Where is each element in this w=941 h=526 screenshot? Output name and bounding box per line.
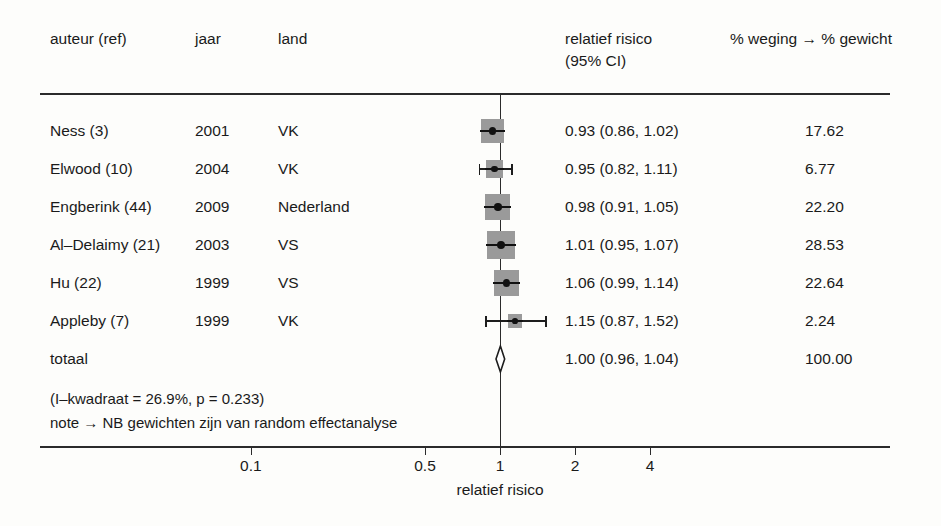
axis-tick-label: 0.1 xyxy=(240,457,262,475)
study-author: Engberink (44) xyxy=(50,198,152,216)
study-year: 2003 xyxy=(195,236,229,254)
study-country: VK xyxy=(278,122,299,140)
axis-tick xyxy=(650,447,651,455)
summary-effect: 1.00 (0.96, 1.04) xyxy=(565,350,679,368)
study-year: 1999 xyxy=(195,274,229,292)
study-country: VS xyxy=(278,236,299,254)
ci-cap-right xyxy=(511,164,513,175)
axis-tick-label: 4 xyxy=(646,457,655,475)
point-estimate-bar xyxy=(485,168,505,170)
point-estimate-bar xyxy=(507,320,523,322)
axis-line xyxy=(40,446,890,448)
study-author: Hu (22) xyxy=(50,274,102,292)
point-estimate-bar xyxy=(493,282,520,284)
note-text: note → NB gewichten zijn van random effe… xyxy=(50,414,397,432)
header-country: land xyxy=(278,30,307,48)
study-author: Al–Delaimy (21) xyxy=(50,236,160,254)
study-effect: 0.98 (0.91, 1.05) xyxy=(565,198,679,216)
study-effect: 1.15 (0.87, 1.52) xyxy=(565,312,679,330)
study-year: 2004 xyxy=(195,160,229,178)
study-author: Appleby (7) xyxy=(50,312,129,330)
point-estimate-bar xyxy=(480,130,505,132)
study-year: 2009 xyxy=(195,198,229,216)
ci-cap-left xyxy=(485,316,487,327)
axis-title: relatief risico xyxy=(457,481,544,499)
study-effect: 0.95 (0.82, 1.11) xyxy=(565,160,678,178)
study-weight: 6.77 xyxy=(805,160,835,178)
study-weight: 22.64 xyxy=(805,274,844,292)
study-year: 2001 xyxy=(195,122,229,140)
axis-tick xyxy=(425,447,426,455)
axis-tick xyxy=(575,447,576,455)
ci-cap-right xyxy=(545,316,547,327)
study-weight: 28.53 xyxy=(805,236,844,254)
summary-diamond xyxy=(494,344,508,374)
ci-cap-left xyxy=(479,164,481,175)
study-country: VS xyxy=(278,274,299,292)
axis-tick-label: 2 xyxy=(571,457,580,475)
axis-tick xyxy=(251,447,252,455)
axis-tick-label: 0.5 xyxy=(414,457,436,475)
header-divider xyxy=(40,93,890,95)
header-effect-line1: relatief risico xyxy=(565,30,652,48)
axis-tick-label: 1 xyxy=(496,457,505,475)
header-author: auteur (ref) xyxy=(50,30,127,48)
study-author: Ness (3) xyxy=(50,122,109,140)
header-effect-line2: (95% CI) xyxy=(565,52,626,70)
heterogeneity-text: (I–kwadraat = 26.9%, p = 0.233) xyxy=(50,390,264,408)
study-country: VK xyxy=(278,312,299,330)
study-effect: 1.06 (0.99, 1.14) xyxy=(565,274,679,292)
study-country: VK xyxy=(278,160,299,178)
study-author: Elwood (10) xyxy=(50,160,133,178)
study-weight: 2.24 xyxy=(805,312,835,330)
header-weight: % weging → % gewicht xyxy=(730,30,892,48)
study-year: 1999 xyxy=(195,312,229,330)
point-estimate-bar xyxy=(484,206,511,208)
axis-tick xyxy=(500,447,501,455)
forest-plot: auteur (ref) jaar land relatief risico (… xyxy=(0,0,941,526)
point-estimate-bar xyxy=(486,244,515,246)
study-effect: 1.01 (0.95, 1.07) xyxy=(565,236,679,254)
summary-weight: 100.00 xyxy=(805,350,852,368)
study-weight: 17.62 xyxy=(805,122,844,140)
summary-label: totaal xyxy=(50,350,88,368)
study-effect: 0.93 (0.86, 1.02) xyxy=(565,122,679,140)
study-weight: 22.20 xyxy=(805,198,844,216)
study-country: Nederland xyxy=(278,198,350,216)
header-year: jaar xyxy=(195,30,221,48)
